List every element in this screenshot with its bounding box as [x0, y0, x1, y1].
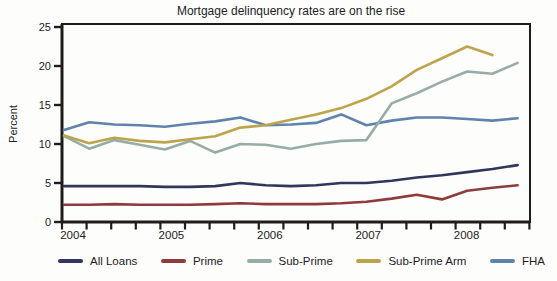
legend-swatch-prime: [161, 259, 186, 263]
y-tick-label: 25: [39, 21, 51, 33]
legend-label-all-loans: All Loans: [90, 255, 137, 267]
x-tick-label: 2006: [257, 229, 283, 241]
y-axis: 0510152025: [39, 21, 62, 228]
series-lines: [64, 47, 518, 205]
series-line-fha: [64, 114, 518, 130]
y-tick-label: 0: [45, 216, 51, 228]
x-axis: 20042005200620072008: [60, 222, 529, 241]
y-tick-label: 15: [39, 99, 51, 111]
y-tick-label: 10: [39, 138, 51, 150]
line-chart-canvas: Mortgage delinquency rates are on the ri…: [0, 0, 557, 241]
x-tick-label: 2004: [60, 229, 86, 241]
legend-swatch-all-loans: [58, 259, 83, 263]
chart-title: Mortgage delinquency rates are on the ri…: [177, 4, 405, 18]
legend-item-sub-prime: Sub-Prime: [247, 255, 333, 267]
legend-label-sub-prime: Sub-Prime: [279, 255, 333, 267]
x-tick-label: 2005: [159, 229, 185, 241]
legend-label-prime: Prime: [193, 255, 223, 267]
legend-item-all-loans: All Loans: [58, 255, 137, 267]
series-line-all-loans: [64, 165, 518, 187]
series-line-sub-prime-arm: [64, 47, 492, 144]
legend-label-fha: FHA: [522, 255, 545, 267]
legend-item-prime: Prime: [161, 255, 223, 267]
y-axis-label: Percent: [7, 105, 19, 143]
y-tick-label: 20: [39, 60, 51, 72]
series-line-prime: [64, 185, 518, 205]
mortgage-delinquency-chart: Mortgage delinquency rates are on the ri…: [0, 0, 557, 281]
legend-swatch-sub-prime-arm: [356, 259, 381, 263]
legend-swatch-sub-prime: [247, 259, 272, 263]
legend: All LoansPrimeSub-PrimeSub-Prime ArmFHA: [58, 255, 545, 267]
legend-item-sub-prime-arm: Sub-Prime Arm: [356, 255, 466, 267]
x-tick-label: 2007: [355, 229, 381, 241]
legend-item-fha: FHA: [490, 255, 545, 267]
legend-swatch-fha: [490, 259, 515, 263]
x-tick-label: 2008: [454, 229, 480, 241]
legend-label-sub-prime-arm: Sub-Prime Arm: [388, 255, 466, 267]
y-tick-label: 5: [45, 177, 51, 189]
